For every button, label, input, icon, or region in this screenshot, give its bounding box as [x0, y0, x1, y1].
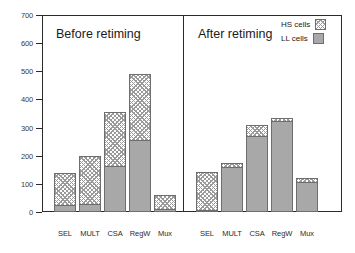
- stacked-bar[interactable]: [104, 112, 126, 212]
- bar-segment-ll-cells: [271, 121, 293, 212]
- bar-segment-ll-cells: [79, 204, 101, 212]
- bar-segment-ll-cells: [154, 209, 176, 212]
- y-axis-tick-label: 0: [29, 208, 33, 217]
- x-axis-tick-label: Mux: [154, 229, 176, 247]
- stacked-bar[interactable]: [129, 74, 151, 212]
- y-axis-tick-label: 700: [21, 11, 33, 20]
- x-axis-tick-label: RegW: [129, 229, 151, 247]
- x-axis-labels: SELMULTCSARegWMux: [196, 229, 318, 247]
- bar-segment-ll-cells: [54, 205, 76, 212]
- stacked-bar[interactable]: [154, 195, 176, 212]
- chart-container: 0100200300400500600700 Before retimingSE…: [0, 0, 355, 253]
- y-axis-tick-label: 600: [21, 39, 33, 48]
- legend-swatch-hs-cells: [315, 19, 326, 30]
- x-axis-tick-label: SEL: [54, 229, 76, 247]
- stacked-bar[interactable]: [296, 178, 318, 212]
- bar-segment-hs-cells: [104, 112, 126, 165]
- bar-slot: [79, 15, 101, 212]
- bar-slot: [246, 15, 268, 212]
- x-axis-tick-label: CSA: [246, 229, 268, 247]
- y-axis-tick-label: 300: [21, 123, 33, 132]
- bar-segment-ll-cells: [104, 166, 126, 212]
- bar-slot: [221, 15, 243, 212]
- y-axis: 0100200300400500600700: [0, 0, 42, 253]
- chart-legend: HS cellsLL cells: [281, 19, 326, 44]
- bar-group: [54, 15, 176, 212]
- x-axis-tick-label: RegW: [271, 229, 293, 247]
- bar-slot: [129, 15, 151, 212]
- legend-label: LL cells: [281, 34, 308, 43]
- legend-label: HS cells: [281, 20, 310, 29]
- legend-item[interactable]: LL cells: [281, 33, 326, 44]
- x-axis-tick-label: MULT: [221, 229, 243, 247]
- bar-segment-hs-cells: [79, 156, 101, 204]
- bar-slot: [296, 15, 318, 212]
- stacked-bar[interactable]: [221, 163, 243, 212]
- bar-segment-ll-cells: [196, 210, 218, 212]
- x-axis-labels: SELMULTCSARegWMux: [54, 229, 176, 247]
- bar-segment-ll-cells: [221, 167, 243, 212]
- bar-segment-hs-cells: [196, 172, 218, 210]
- panel-before-retiming: Before retimingSELMULTCSARegWMux: [42, 15, 183, 212]
- stacked-bar[interactable]: [54, 173, 76, 212]
- bar-slot: [271, 15, 293, 212]
- bar-segment-hs-cells: [246, 125, 268, 136]
- bar-segment-ll-cells: [129, 140, 151, 212]
- y-axis-tick-label: 200: [21, 151, 33, 160]
- bar-slot: [54, 15, 76, 212]
- x-axis-tick-label: CSA: [104, 229, 126, 247]
- bar-segment-ll-cells: [246, 136, 268, 212]
- bar-slot: [196, 15, 218, 212]
- bar-slot: [154, 15, 176, 212]
- y-axis-tick-mark: [36, 212, 42, 213]
- stacked-bar[interactable]: [246, 125, 268, 212]
- legend-swatch-ll-cells: [313, 33, 324, 44]
- bar-segment-hs-cells: [129, 74, 151, 140]
- y-axis-tick-label: 500: [21, 67, 33, 76]
- y-axis-tick-label: 400: [21, 95, 33, 104]
- bar-group: [196, 15, 318, 212]
- legend-item[interactable]: HS cells: [281, 19, 326, 30]
- stacked-bar[interactable]: [196, 172, 218, 212]
- x-axis-tick-label: SEL: [196, 229, 218, 247]
- bar-segment-hs-cells: [154, 195, 176, 209]
- y-axis-tick-label: 100: [21, 179, 33, 188]
- stacked-bar[interactable]: [271, 118, 293, 212]
- x-axis-tick-label: MULT: [79, 229, 101, 247]
- panel-after-retiming: After retimingSELMULTCSARegWMux: [184, 15, 342, 212]
- bar-segment-ll-cells: [296, 182, 318, 212]
- bar-slot: [104, 15, 126, 212]
- stacked-bar[interactable]: [79, 156, 101, 212]
- bar-segment-hs-cells: [54, 173, 76, 205]
- x-axis-tick-label: Mux: [296, 229, 318, 247]
